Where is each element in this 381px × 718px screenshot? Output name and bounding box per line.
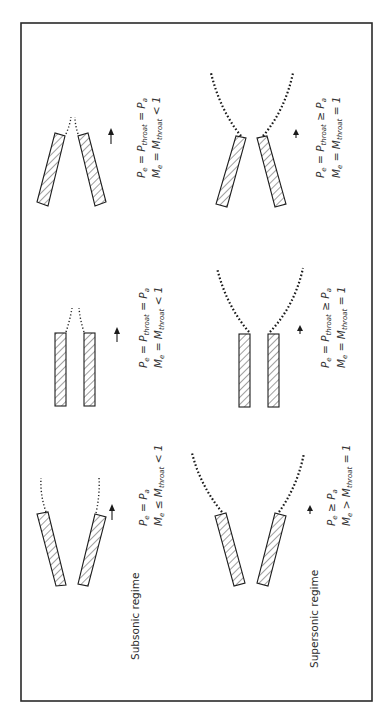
flow-arrow xyxy=(114,327,120,342)
equation-pressure: Pe = Pthroat ≥ Pa xyxy=(314,98,328,178)
nozzle-wall-lower xyxy=(257,513,286,586)
nozzle-subsonic-converging: Pe = Pthroat = Pa Me = Mthroat < 1 xyxy=(37,97,164,206)
exhaust-plume xyxy=(263,73,293,136)
equation-mach: Me = Mthroat = 1 xyxy=(335,287,349,368)
arrow-up-icon xyxy=(307,505,313,511)
exhaust-plume xyxy=(66,308,72,332)
equation-mach: Me ≤ Mthroat < 1 xyxy=(152,445,166,526)
equation-pressure: Pe = Pthroat = Pa xyxy=(137,288,151,368)
exhaust-plume xyxy=(270,268,303,332)
nozzle-wall-lower xyxy=(257,136,286,207)
exhaust-plume xyxy=(211,73,241,136)
arrow-up-icon xyxy=(293,129,299,135)
nozzle-wall-lower xyxy=(84,333,95,406)
nozzle-wall-upper xyxy=(239,334,250,407)
nozzle-subsonic-cd: Pe = Pa Me ≤ Mthroat < 1 Subsonic regime xyxy=(37,445,166,660)
flow-arrow xyxy=(109,504,115,520)
exhaust-plume xyxy=(217,268,249,332)
equation-mach: Me = Mthroat = 1 xyxy=(330,97,344,178)
nozzle-wall-lower xyxy=(78,514,106,586)
equation-pressure: Pe ≥ Pa xyxy=(325,489,339,526)
flow-arrow xyxy=(307,505,313,514)
exhaust-plume xyxy=(41,478,46,512)
exhaust-plume xyxy=(96,478,99,513)
equation-mach: Me = Mthroat < 1 xyxy=(152,287,166,368)
nozzle-wall-lower xyxy=(268,334,279,407)
equation-pressure: Pe = Pthroat = Pa xyxy=(135,98,149,178)
equation-pressure: Pe = Pa xyxy=(137,489,151,526)
exhaust-plume xyxy=(279,453,304,512)
equation-pressure: Pe = Pthroat ≥ Pa xyxy=(319,288,333,368)
nozzle-supersonic-cd: Pe ≥ Pa Me > Mthroat = 1 Supersonic regi… xyxy=(192,445,354,668)
nozzle-wall-upper xyxy=(37,133,65,206)
equation-mach: Me = Mthroat < 1 xyxy=(150,97,164,178)
nozzle-supersonic-straight: Pe = Pthroat ≥ Pa Me = Mthroat = 1 xyxy=(217,268,349,407)
flow-arrow xyxy=(108,128,114,144)
exhaust-plume xyxy=(66,117,71,134)
nozzle-regimes-figure: Pe = Pthroat = Pa Me = Mthroat < 1 Pe = … xyxy=(0,0,381,718)
equation-mach: Me > Mthroat = 1 xyxy=(340,445,354,526)
arrow-up-icon xyxy=(109,504,115,511)
arrow-up-icon xyxy=(114,327,120,334)
exhaust-plume xyxy=(75,117,78,134)
nozzle-supersonic-converging: Pe = Pthroat ≥ Pa Me = Mthroat = 1 xyxy=(211,73,344,207)
nozzle-wall-upper xyxy=(216,136,246,207)
regime-label-subsonic: Subsonic regime xyxy=(129,573,141,660)
nozzle-wall-lower xyxy=(78,133,106,206)
flow-arrow xyxy=(293,129,299,138)
exhaust-plume xyxy=(192,453,222,512)
arrow-up-icon xyxy=(108,128,114,135)
exhaust-plume xyxy=(79,308,84,332)
nozzle-subsonic-straight: Pe = Pthroat = Pa Me = Mthroat < 1 xyxy=(55,287,166,406)
nozzle-wall-upper xyxy=(37,512,66,586)
arrow-up-icon xyxy=(297,325,303,331)
flow-arrow xyxy=(297,325,303,334)
nozzle-wall-upper xyxy=(55,333,66,406)
nozzle-wall-upper xyxy=(215,513,245,586)
regime-label-supersonic: Supersonic regime xyxy=(308,570,320,668)
